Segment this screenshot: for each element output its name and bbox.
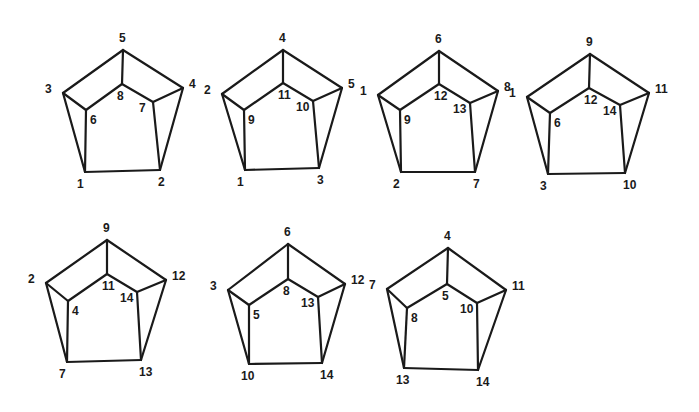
- vertex-label-left: 1: [360, 84, 367, 98]
- vertex-label-bottom-left: 3: [540, 179, 547, 193]
- vertex-label-inner-right: 14: [603, 104, 617, 118]
- edge-top-left: [378, 51, 439, 95]
- pentagon-graph-2: 4251191013: [204, 31, 355, 189]
- edge-inner_left-bottom_left: [400, 110, 401, 172]
- edge-right-bottom_right: [478, 290, 506, 370]
- edge-inner_right-bottom_right: [153, 102, 160, 170]
- edge-top-right: [590, 54, 649, 93]
- edge-inner_right-bottom_right: [477, 303, 478, 370]
- edge-top-right: [448, 248, 506, 290]
- edge-left-bottom_left: [387, 289, 404, 368]
- vertex-label-bottom-right: 14: [476, 375, 490, 389]
- vertex-label-inner-left: 6: [90, 113, 97, 127]
- vertex-label-top: 4: [279, 31, 286, 45]
- vertex-label-bottom-left: 2: [393, 177, 400, 191]
- edge-top-right: [123, 50, 183, 88]
- edge-inner_right-bottom_right: [470, 103, 475, 172]
- vertex-label-inner-right: 13: [453, 102, 467, 116]
- vertex-label-bottom-left: 13: [396, 373, 410, 387]
- vertex-label-bottom-right: 10: [623, 178, 637, 192]
- vertex-label-inner-right: 13: [301, 296, 315, 310]
- vertex-label-right: 12: [172, 269, 186, 283]
- edge-inner_right-bottom_right: [620, 105, 625, 173]
- edge-inner_top-inner_right: [288, 279, 318, 297]
- pentagon-graph-7: 471158101314: [369, 229, 525, 389]
- vertex-label-inner-right: 10: [460, 302, 474, 316]
- vertex-label-inner-right: 10: [296, 100, 310, 114]
- pentagon-graph-5: 921211414713: [28, 221, 186, 381]
- vertex-label-right: 11: [512, 279, 525, 293]
- vertex-label-inner-left: 5: [253, 308, 260, 322]
- edge-right-bottom_right: [625, 93, 649, 173]
- edge-top-inner_top: [447, 248, 448, 284]
- edge-right-bottom_right: [160, 88, 183, 170]
- vertex-label-inner-top: 11: [102, 279, 115, 293]
- edge-top-left: [222, 50, 283, 94]
- vertex-label-bottom-left: 7: [59, 367, 66, 381]
- vertex-label-inner-right: 7: [139, 101, 146, 115]
- vertex-label-left: 3: [45, 82, 52, 96]
- vertex-label-bottom-right: 2: [158, 175, 165, 189]
- vertex-label-inner-top: 12: [584, 93, 598, 107]
- edge-top-right: [439, 51, 498, 91]
- vertex-label-bottom-right: 3: [317, 173, 324, 187]
- edge-inner_top-inner_right: [447, 284, 477, 303]
- vertex-label-inner-top: 11: [278, 88, 291, 102]
- edge-inner_right-bottom_right: [137, 292, 141, 360]
- edge-bottom_left-bottom_right: [67, 360, 141, 362]
- vertex-label-inner-left: 4: [72, 304, 79, 318]
- edge-bottom_left-bottom_right: [249, 363, 322, 364]
- edge-inner_left-bottom_left: [404, 308, 407, 368]
- edge-right-bottom_right: [319, 88, 342, 168]
- edge-left-bottom_left: [378, 95, 401, 172]
- vertex-label-inner-left: 6: [554, 116, 561, 130]
- diagram-canvas: 5348671242511910136181291327911112614310…: [0, 0, 699, 412]
- edge-right-inner_right: [620, 93, 649, 105]
- vertex-label-right: 11: [655, 82, 668, 96]
- vertex-label-inner-top: 12: [434, 89, 448, 103]
- vertex-label-bottom-left: 10: [241, 369, 255, 383]
- edge-bottom_left-bottom_right: [548, 173, 625, 174]
- edge-right-bottom_right: [141, 280, 166, 360]
- vertex-label-bottom-right: 7: [473, 177, 480, 191]
- edge-right-inner_right: [137, 280, 166, 292]
- vertex-label-top: 6: [284, 225, 291, 239]
- edge-top-inner_top: [122, 50, 123, 84]
- vertex-label-top: 4: [444, 229, 451, 243]
- edge-bottom_left-bottom_right: [85, 170, 160, 172]
- edge-top-right: [107, 240, 166, 280]
- edge-top-inner_top: [589, 54, 590, 88]
- vertex-label-top: 5: [119, 31, 126, 45]
- vertex-label-bottom-right: 13: [139, 365, 153, 379]
- edge-right-inner_right: [153, 88, 183, 102]
- edge-top-right: [288, 244, 345, 284]
- edge-inner_left-bottom_left: [85, 110, 86, 172]
- vertex-label-inner-top: 5: [442, 289, 449, 303]
- vertex-label-bottom-left: 1: [77, 177, 84, 191]
- edge-top-left: [387, 248, 448, 289]
- edge-left-bottom_left: [46, 283, 67, 362]
- vertex-label-right: 12: [351, 273, 365, 287]
- vertex-label-left: 7: [369, 278, 376, 292]
- edge-inner_right-bottom_right: [318, 297, 322, 363]
- edge-inner_left-bottom_left: [67, 301, 68, 362]
- edge-top-left: [46, 240, 107, 283]
- edge-inner_left-bottom_left: [244, 110, 245, 170]
- vertex-label-inner-left: 9: [248, 113, 255, 127]
- edge-right-inner_right: [313, 88, 342, 101]
- pentagon-graph-4: 911112614310: [509, 35, 668, 193]
- vertex-label-bottom-right: 14: [320, 368, 334, 382]
- vertex-label-left: 1: [509, 86, 516, 100]
- pentagon-graph-3: 6181291327: [360, 32, 511, 191]
- vertex-label-inner-right: 14: [120, 291, 134, 305]
- edge-top-right: [283, 50, 342, 88]
- vertex-label-top: 6: [435, 32, 442, 46]
- vertex-label-inner-left: 9: [404, 113, 411, 127]
- edge-top-left: [527, 54, 590, 97]
- edge-left-bottom_left: [222, 94, 245, 170]
- edge-inner_right-bottom_right: [313, 101, 319, 168]
- edge-right-bottom_right: [322, 284, 345, 363]
- edge-left-bottom_left: [63, 93, 85, 172]
- pentagon-graph-6: 631285131014: [210, 225, 365, 383]
- edge-inner_top-inner_right: [122, 84, 153, 102]
